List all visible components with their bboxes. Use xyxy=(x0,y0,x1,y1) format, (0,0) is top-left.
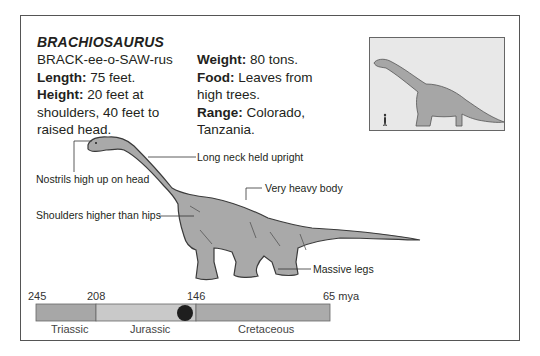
cretaceous-segment xyxy=(196,304,330,321)
body-callout-line xyxy=(246,188,262,200)
callout-neck: Long neck held upright xyxy=(197,151,303,163)
period-cretaceous: Cretaceous xyxy=(238,323,294,335)
tick-208: 208 xyxy=(87,290,105,302)
era-marker-dot xyxy=(177,305,193,321)
callout-body: Very heavy body xyxy=(265,182,343,194)
tick-65: 65 mya xyxy=(323,290,359,302)
callout-shoulders: Shoulders higher than hips xyxy=(36,209,161,221)
period-triassic: Triassic xyxy=(51,323,88,335)
tick-245: 245 xyxy=(28,290,46,302)
callout-legs: Massive legs xyxy=(313,263,374,275)
period-jurassic: Jurassic xyxy=(130,323,170,335)
tick-146: 146 xyxy=(187,290,205,302)
callout-nostrils: Nostrils high up on head xyxy=(36,173,149,185)
triassic-segment xyxy=(36,304,96,321)
